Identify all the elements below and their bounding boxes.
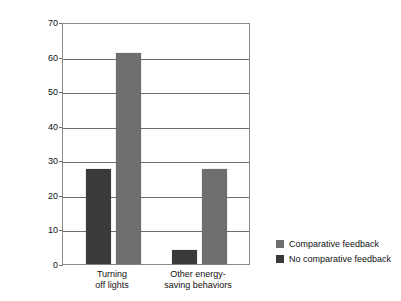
cut-off-header-text (30, 0, 380, 9)
y-tick-label: 20 (32, 191, 58, 201)
gridline (63, 162, 249, 163)
legend-swatch-icon (276, 240, 284, 248)
gridline (63, 59, 249, 60)
plot-area (62, 23, 250, 265)
legend-item: Comparative feedback (276, 237, 391, 250)
y-tick-label: 30 (32, 156, 58, 166)
chart-legend: Comparative feedbackNo comparative feedb… (276, 237, 391, 267)
bar (172, 250, 197, 264)
legend-item-label: Comparative feedback (289, 239, 379, 249)
y-tick-label: 70 (32, 18, 58, 28)
y-tick-label: 0 (32, 260, 58, 270)
gridline (63, 93, 249, 94)
y-tick-label: 50 (32, 87, 58, 97)
bar-chart-figure: Percent improvement 010203040506070 Turn… (0, 0, 401, 301)
x-category-label-line: saving behaviors (153, 280, 243, 291)
legend-swatch-icon (276, 255, 284, 263)
x-category-label: Other energy-saving behaviors (153, 269, 243, 291)
y-tick-mark (59, 265, 63, 266)
gridline (63, 128, 249, 129)
x-category-label-line: Other energy- (153, 269, 243, 280)
x-category-label-line: Turning (67, 269, 157, 280)
y-tick-label: 40 (32, 122, 58, 132)
legend-item-label: No comparative feedback (289, 254, 391, 264)
bar (86, 169, 111, 264)
x-category-label: Turningoff lights (67, 269, 157, 291)
legend-item: No comparative feedback (276, 252, 391, 265)
plot-inner (63, 24, 249, 264)
bar (202, 169, 227, 264)
y-axis-ticks: 010203040506070 (28, 23, 58, 265)
x-category-label-line: off lights (67, 280, 157, 291)
y-tick-label: 60 (32, 53, 58, 63)
bar (116, 53, 141, 264)
y-tick-label: 10 (32, 225, 58, 235)
